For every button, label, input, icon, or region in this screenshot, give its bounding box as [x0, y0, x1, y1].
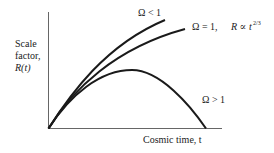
y-axis-label-line-2: factor,	[15, 50, 40, 61]
y-axis-label-line-3: R(t)	[14, 62, 31, 74]
x-axis-label: Cosmic time, t	[143, 134, 202, 145]
curve-omega-equal-1	[49, 29, 186, 129]
curve-omega-greater-than-1	[49, 70, 207, 129]
label-exponent: 2/3	[253, 20, 261, 26]
scale-factor-diagram: Ω < 1 Ω = 1, R ∝ t 2/3 Ω > 1 Scale facto…	[0, 0, 274, 153]
label-proportionality: R ∝ t	[230, 21, 252, 32]
y-axis-label-line-1: Scale	[15, 38, 37, 49]
label-omega-equal-1: Ω = 1,	[192, 21, 218, 32]
label-omega-less-than-1: Ω < 1	[138, 7, 161, 18]
label-omega-greater-than-1: Ω > 1	[202, 94, 225, 105]
